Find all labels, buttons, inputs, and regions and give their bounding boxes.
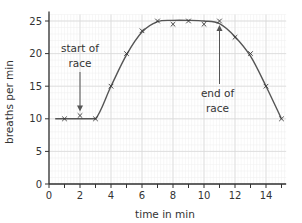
start-of-race-label: start of <box>61 42 99 54</box>
minor-grid <box>49 14 286 184</box>
start-of-race-label: race <box>69 57 92 69</box>
end-arrow-head-icon <box>217 25 223 31</box>
x-tick-label: 4 <box>108 190 114 201</box>
x-tick-label: 14 <box>260 190 273 201</box>
y-tick-label: 20 <box>29 48 42 59</box>
x-tick-label: 10 <box>198 190 211 201</box>
end-of-race-label: end of <box>201 87 235 99</box>
x-axis-label: time in min <box>135 208 195 220</box>
y-tick-label: 15 <box>29 81 42 92</box>
x-tick-label: 12 <box>229 190 242 201</box>
end-of-race-label: race <box>206 102 229 114</box>
y-tick-label: 10 <box>29 113 42 124</box>
axes <box>45 11 286 188</box>
x-tick-label: 6 <box>139 190 145 201</box>
y-axis-label: breaths per min <box>3 60 15 144</box>
x-tick-label: 0 <box>46 190 52 201</box>
y-tick-label: 0 <box>36 179 42 190</box>
y-tick-label: 25 <box>29 16 42 27</box>
annotations: start ofraceend ofrace <box>61 25 234 114</box>
start-arrow-head-icon <box>77 106 83 112</box>
x-tick-label: 8 <box>170 190 176 201</box>
y-tick-label: 5 <box>36 146 42 157</box>
x-tick-label: 2 <box>77 190 83 201</box>
breathing-rate-chart: 024681012140510152025 start ofraceend of… <box>0 0 302 223</box>
